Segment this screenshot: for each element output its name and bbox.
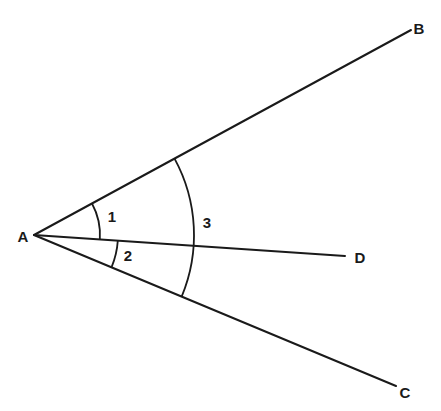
ray-ad [34,235,345,256]
angle-label-2: 2 [124,247,132,264]
angle-2-arc [112,241,118,268]
angle-label-3: 3 [203,214,211,231]
ray-ab [34,30,411,235]
angle-diagram: A B D C 1 2 3 [0,0,441,411]
angle-label-1: 1 [108,208,116,225]
angle-3-arc [175,159,194,297]
vertex-label-a: A [18,228,29,245]
diagram-svg: A B D C 1 2 3 [0,0,441,411]
ray-ac [34,235,396,386]
point-label-d: D [355,249,366,266]
angle-1-arc [92,203,100,239]
point-label-b: B [414,20,425,37]
point-label-c: C [400,384,411,401]
